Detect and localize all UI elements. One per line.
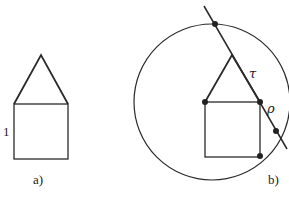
rho-label: ρ (266, 101, 275, 116)
square-corner-bottom-point (257, 153, 263, 159)
figure-b: τ ρ b) (134, 6, 289, 187)
caption-b: b) (268, 172, 279, 187)
intersection-point-right (273, 128, 279, 134)
tau-label: τ (249, 66, 257, 81)
caption-a: a) (33, 172, 43, 187)
side-length-label: 1 (3, 124, 10, 139)
house-square-a (14, 104, 68, 159)
diagram-canvas: 1 a) τ ρ b) (0, 0, 289, 197)
intersection-point-top (212, 21, 218, 27)
house-roof-a (14, 55, 68, 104)
square-corner-right-point (257, 99, 263, 105)
figure-a: 1 a) (3, 55, 68, 187)
square-corner-left-point (202, 99, 208, 105)
house-square-b (205, 102, 260, 157)
